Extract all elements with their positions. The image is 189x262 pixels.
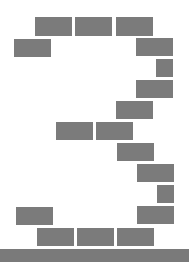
brick-block [37,228,74,246]
brick-block [35,17,72,36]
brick-block [157,185,174,203]
brick-block [137,206,174,224]
brick-block [136,80,173,98]
brick-block [56,122,93,140]
brick-block [116,101,153,119]
brick-block [136,38,173,56]
brick-block [77,228,114,246]
brick-block [117,143,154,161]
brick-block [14,39,51,57]
brick-block [117,228,154,246]
brick-block [137,164,174,182]
brick-block [156,59,173,77]
ground-bar [0,249,189,262]
brick-block [75,17,112,36]
brick-block [116,17,153,36]
brick-block [16,207,53,225]
brick-block [96,122,133,140]
